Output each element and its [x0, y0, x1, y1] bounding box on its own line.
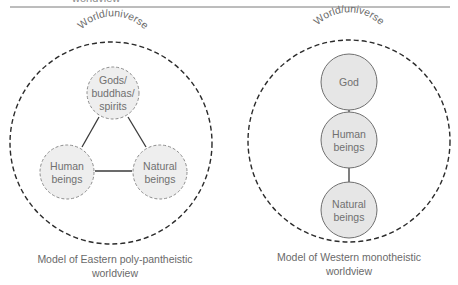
node-label-line: Human [50, 160, 84, 172]
node-label-line: beings [52, 173, 83, 185]
western-caption-line-1: Model of Western monotheistic [277, 251, 421, 263]
western-world-label: World/universe [311, 2, 387, 27]
western-caption-line-2: worldview [325, 265, 373, 277]
eastern-model: World/universe Gods/ buddhas/ spirits Hu… [10, 6, 212, 279]
western-node-god: God [321, 54, 377, 110]
node-label-line: buddhas/ [91, 87, 134, 99]
node-label-line: Natural [143, 160, 177, 172]
eastern-caption-line-1: Model of Eastern poly-pantheistic [37, 253, 192, 265]
eastern-node-human: Human beings [40, 145, 94, 199]
western-node-natural: Natural beings [321, 182, 377, 238]
node-label-line: Human [332, 128, 366, 140]
western-model: World/universe God Human beings Natural … [248, 2, 450, 277]
node-label-line: beings [145, 173, 176, 185]
connector-gods-natural [128, 117, 146, 147]
eastern-world-label: World/universe [75, 6, 151, 31]
node-label-line: spirits [99, 100, 126, 112]
node-label-line: Gods/ [99, 74, 127, 86]
node-label-line: beings [334, 211, 365, 223]
worldview-diagram: worldview World/universe Gods/ buddhas/ … [0, 0, 458, 285]
connector-gods-human [82, 117, 99, 147]
node-label-line: beings [334, 141, 365, 153]
eastern-node-gods: Gods/ buddhas/ spirits [87, 67, 139, 119]
node-label-line: Natural [332, 198, 366, 210]
eastern-node-natural: Natural beings [133, 145, 187, 199]
cut-off-heading-text: worldview [71, 0, 120, 4]
eastern-caption-line-2: worldview [91, 267, 139, 279]
western-node-human: Human beings [321, 112, 377, 168]
node-label-line: God [339, 76, 359, 88]
